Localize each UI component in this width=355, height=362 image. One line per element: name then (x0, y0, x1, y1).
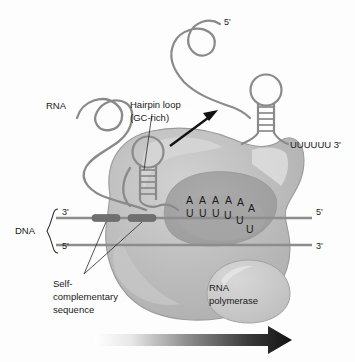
released-rna-5prime-coil (171, 21, 250, 118)
base-u-2: U (199, 207, 207, 219)
label-dna: DNA (15, 225, 36, 236)
label-dna-top-end: 3' (62, 207, 69, 217)
label-rna: RNA (46, 100, 67, 111)
self-comp-leader-1 (84, 222, 106, 274)
label-self-complementary-line3: sequence (53, 304, 94, 315)
base-a-5: A (237, 196, 244, 208)
released-rna-left-leg (242, 133, 258, 144)
label-dna-top-right-end: 5' (316, 207, 323, 217)
label-self-complementary-line1: Self- (53, 278, 73, 289)
rna-polymerase-enzyme (106, 128, 304, 323)
direction-arrow-shape (95, 326, 292, 354)
self-complementary-segment-1 (92, 215, 120, 222)
base-a-2: A (199, 194, 206, 206)
label-self-complementary-line2: complementary (53, 291, 118, 302)
base-u-6: U (246, 223, 254, 235)
base-a-1: A (186, 194, 193, 206)
base-u-1: U (186, 207, 194, 219)
released-hairpin-loop-circle (251, 75, 282, 106)
label-dna-bottom-end: 5' (62, 241, 69, 251)
base-u-3: U (212, 207, 220, 219)
base-a-6: A (248, 202, 255, 214)
diagram-canvas: A A A A A A U U U U U U RNA Hairpin loop… (0, 0, 355, 362)
termination-diagram: A A A A A A U U U U U U RNA Hairpin loop… (0, 0, 355, 362)
label-hairpin-loop-line1: Hairpin loop (130, 99, 181, 110)
base-u-4: U (224, 209, 232, 221)
label-polymerase-line2: polymerase (209, 295, 258, 306)
released-rna-transcript (171, 21, 288, 144)
label-polymerase-line1: RNA (209, 282, 230, 293)
base-u-5: U (236, 214, 244, 226)
transcription-direction-arrow (95, 326, 292, 354)
base-a-3: A (212, 194, 219, 206)
label-hairpin-loop-line2: (GC-rich) (130, 112, 169, 123)
label-rna-five-prime: 5' (224, 17, 231, 27)
base-a-4: A (225, 194, 232, 206)
dna-brace (47, 209, 58, 253)
label-released-tail: UUUUUU 3' (290, 139, 341, 150)
self-complementary-segment-2 (128, 215, 156, 222)
label-dna-bottom-right-end: 3' (316, 241, 323, 251)
released-stem-rungs (258, 107, 274, 131)
